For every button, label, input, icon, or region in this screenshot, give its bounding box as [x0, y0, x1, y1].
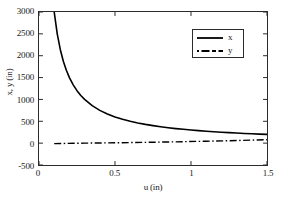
x-tick-label: 1 [189, 169, 193, 178]
chart-figure: 3000 2500 2000 1500 1000 500 0 -500 0 0.… [0, 0, 281, 198]
x-tick-label: 0.5 [109, 169, 120, 178]
y-tick-label: 2000 [17, 51, 34, 60]
legend-swatch-solid-icon [196, 32, 224, 44]
y-tick-label: 1500 [17, 73, 34, 82]
y-tick-label: -500 [18, 162, 34, 171]
legend-label: y [228, 46, 232, 55]
legend-swatch-dashdot-icon [196, 45, 224, 57]
y-tick-label: 3000 [17, 7, 34, 16]
y-axis-title: x, y (in) [4, 52, 14, 112]
chart-legend: x y [192, 29, 244, 58]
x-axis-tick-labels: 0 0.5 1 1.5 [38, 169, 268, 181]
series-line-y [54, 140, 267, 144]
y-tick-label: 1000 [17, 95, 34, 104]
legend-entry-y: y [193, 44, 243, 57]
legend-entry-x: x [193, 31, 243, 44]
legend-label: x [228, 33, 232, 42]
x-tick-label: 0 [36, 169, 40, 178]
y-tick-label: 500 [21, 117, 34, 126]
y-tick-label: 2500 [17, 29, 34, 38]
y-tick-label: 0 [30, 139, 34, 148]
x-axis-title: u (in) [38, 182, 268, 192]
x-tick-label: 1.5 [263, 169, 274, 178]
